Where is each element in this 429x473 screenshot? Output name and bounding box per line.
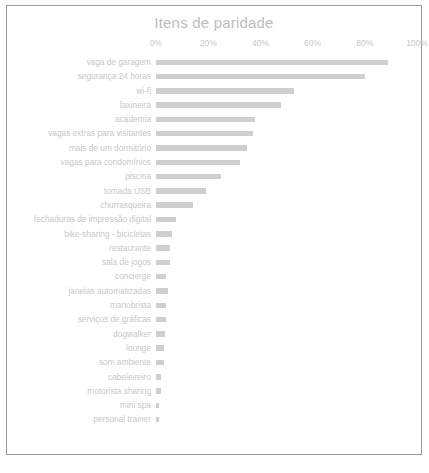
bar-fill <box>156 317 166 323</box>
bar-track <box>156 160 417 166</box>
bar-category-label: mais de um dormitório <box>0 143 151 154</box>
bar-fill <box>156 174 221 180</box>
bar-row: churrasqueira <box>7 200 423 214</box>
chart-card: Itens de paridade 0%20%40%60%80%100% vag… <box>6 5 422 455</box>
bar-category-label: manobrista <box>0 300 151 311</box>
bar-track <box>156 74 417 80</box>
bar-fill <box>156 145 247 151</box>
bar-category-label: segurança 24 horas <box>0 71 151 82</box>
bar-row: janelas automatizadas <box>7 286 423 300</box>
bar-row: som ambiente <box>7 357 423 371</box>
bar-category-label: vagas extras para visitantes <box>0 128 151 139</box>
bar-row: wi-fi <box>7 86 423 100</box>
bar-track <box>156 331 417 337</box>
bar-row: vagas para condomínios <box>7 157 423 171</box>
bar-fill <box>156 202 193 208</box>
bar-track <box>156 174 417 180</box>
bar-track <box>156 260 417 266</box>
bar-category-label: cabeleireiro <box>0 372 151 383</box>
bar-fill <box>156 331 165 337</box>
bar-category-label: motorista sharing <box>0 386 151 397</box>
bar-track <box>156 274 417 280</box>
bar-fill <box>156 117 255 123</box>
bar-fill <box>156 374 161 380</box>
bar-row: personal trainer <box>7 414 423 428</box>
bar-track <box>156 245 417 251</box>
bar-fill <box>156 217 176 223</box>
bar-row: tomada USB <box>7 186 423 200</box>
bar-fill <box>156 131 253 137</box>
bar-row: restaurante <box>7 243 423 257</box>
bar-row: piscina <box>7 171 423 185</box>
bar-fill <box>156 274 166 280</box>
bar-fill <box>156 345 164 351</box>
bar-category-label: wi-fi <box>0 86 151 97</box>
bar-row: concierge <box>7 271 423 285</box>
bar-category-label: concierge <box>0 271 151 282</box>
bar-track <box>156 117 417 123</box>
bar-track <box>156 360 417 366</box>
bar-fill <box>156 74 365 80</box>
bar-rows: vaga de garagemsegurança 24 horaswi-fifa… <box>7 57 423 429</box>
bar-category-label: dogwalker <box>0 329 151 340</box>
bar-track <box>156 217 417 223</box>
bar-fill <box>156 231 172 237</box>
bar-fill <box>156 260 170 266</box>
bar-row: bike-sharing - bicicletas <box>7 229 423 243</box>
bar-category-label: personal trainer <box>0 414 151 425</box>
bar-fill <box>156 360 164 366</box>
bar-category-label: faxineira <box>0 100 151 111</box>
bar-fill <box>156 60 388 66</box>
bar-category-label: vagas para condomínios <box>0 157 151 168</box>
bar-track <box>156 345 417 351</box>
bar-fill <box>156 417 159 423</box>
bar-category-label: churrasqueira <box>0 200 151 211</box>
bar-track <box>156 231 417 237</box>
bar-row: faxineira <box>7 100 423 114</box>
bar-row: motorista sharing <box>7 386 423 400</box>
bar-row: dogwalker <box>7 329 423 343</box>
bar-row: vagas extras para visitantes <box>7 128 423 142</box>
bar-category-label: vaga de garagem <box>0 57 151 68</box>
bar-fill <box>156 188 206 194</box>
bar-category-label: sala de jogos <box>0 257 151 268</box>
x-axis-tick: 20% <box>200 38 217 48</box>
bar-category-label: fechaduras de impressão digital <box>0 214 151 225</box>
bar-track <box>156 145 417 151</box>
bar-track <box>156 60 417 66</box>
bar-track <box>156 131 417 137</box>
bar-fill <box>156 288 168 294</box>
bar-fill <box>156 102 281 108</box>
bar-row: mini spa <box>7 400 423 414</box>
x-axis-tick: 40% <box>252 38 269 48</box>
bar-track <box>156 388 417 394</box>
bar-category-label: restaurante <box>0 243 151 254</box>
bar-track <box>156 202 417 208</box>
bar-fill <box>156 403 159 409</box>
bar-category-label: tomada USB <box>0 186 151 197</box>
bar-category-label: serviços de gráficas <box>0 314 151 325</box>
bar-category-label: lounge <box>0 343 151 354</box>
bar-track <box>156 188 417 194</box>
bar-row: vaga de garagem <box>7 57 423 71</box>
chart-title: Itens de paridade <box>7 14 421 31</box>
bar-track <box>156 403 417 409</box>
x-axis-tick: 0% <box>150 38 162 48</box>
bar-row: mais de um dormitório <box>7 143 423 157</box>
bar-fill <box>156 303 166 309</box>
bar-row: sala de jogos <box>7 257 423 271</box>
bar-row: lounge <box>7 343 423 357</box>
bar-row: academia <box>7 114 423 128</box>
bar-track <box>156 317 417 323</box>
x-axis-tick: 100% <box>406 38 428 48</box>
bar-fill <box>156 88 294 94</box>
plot-area: 0%20%40%60%80%100% vaga de garagemsegura… <box>7 36 423 444</box>
bar-category-label: piscina <box>0 171 151 182</box>
bar-row: segurança 24 horas <box>7 71 423 85</box>
bar-category-label: janelas automatizadas <box>0 286 151 297</box>
x-axis-tick: 60% <box>304 38 321 48</box>
bar-row: fechaduras de impressão digital <box>7 214 423 228</box>
bar-track <box>156 88 417 94</box>
bar-fill <box>156 245 170 251</box>
bar-track <box>156 303 417 309</box>
